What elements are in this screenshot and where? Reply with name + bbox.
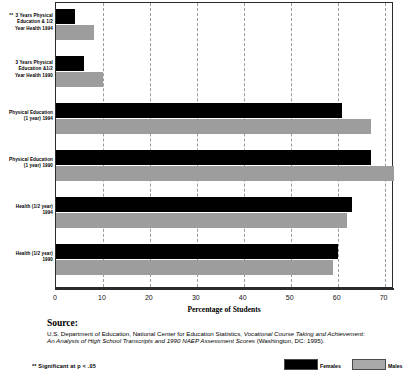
source-text: U.S. Department of Education, National C… [47,330,415,345]
legend-label-males: Males [388,363,402,369]
chart-legend: FemalesMales [284,359,419,373]
gridline-60 [338,3,339,287]
category-label-line: 1990 [0,257,53,264]
x-tick-40: 40 [231,294,255,301]
significance-marker-0: ** [9,13,14,18]
category-label-3: Physical Education(1 year) 1990 [0,157,53,170]
category-label-line: (1 year) 1990 [0,163,53,170]
bar-males-0 [56,25,94,40]
category-label-line: Year Health 1990 [0,73,53,80]
category-label-line: Education & 1/2 [0,19,53,26]
bar-females-0 [56,9,75,24]
legend-label-females: Females [320,363,341,369]
gridline-70 [385,3,386,287]
bar-females-2 [56,103,342,118]
bar-females-5 [56,244,338,259]
plot-area [55,2,393,288]
category-label-line: Year Health 1994 [0,26,53,33]
source-line1-italic: Vocational Course Taking and Achievement… [244,330,365,337]
category-label-line: Education &1/2 [0,66,53,73]
bar-males-2 [56,119,371,134]
legend-swatch-females [284,359,318,370]
bar-males-4 [56,213,347,228]
legend-swatch-males [352,359,386,370]
bar-females-3 [56,150,371,165]
category-label-line: Health (1/2 year) [0,251,53,258]
category-label-line: 3 Years Physical [0,60,53,67]
category-label-4: Health (1/2 year)1994 [0,204,53,217]
bar-females-4 [56,197,352,212]
category-label-line: Health (1/2 year) [0,204,53,211]
source-block: Source: U.S. Department of Education, Na… [47,318,415,345]
category-label-line: (1 year) 1994 [0,116,53,123]
x-tick-10: 10 [90,294,114,301]
plot-region: ** 3 Years PhysicalEducation & 1/2Year H… [0,0,419,292]
source-line2-plain: (Washington, DC: 1995). [257,337,325,344]
source-heading: Source: [47,318,415,329]
source-line2-italic: An Analysis of High School Transcripts a… [47,337,257,344]
x-axis-title: Percentage of Students [55,305,393,314]
significance-footnote: ** Significant at p < .05 [32,363,96,369]
x-tick-60: 60 [325,294,349,301]
category-label-5: Health (1/2 year)1990 [0,251,53,264]
source-line1-plain: U.S. Department of Education, National C… [47,330,244,337]
x-tick-30: 30 [184,294,208,301]
category-label-2: Physical Education(1 year) 1994 [0,110,53,123]
category-label-line: 1994 [0,210,53,217]
bar-males-1 [56,72,103,87]
x-tick-20: 20 [137,294,161,301]
category-label-line: Physical Education [0,110,53,117]
x-tick-70: 70 [372,294,396,301]
x-axis-line [55,288,394,290]
category-label-0: ** 3 Years PhysicalEducation & 1/2Year H… [0,13,53,33]
category-label-line: Physical Education [0,157,53,164]
bar-females-1 [56,56,84,71]
x-tick-50: 50 [278,294,302,301]
category-label-1: 3 Years PhysicalEducation &1/2Year Healt… [0,60,53,80]
bar-males-5 [56,260,333,275]
category-label-line: ** 3 Years Physical [0,13,53,20]
x-tick-0: 0 [43,294,67,301]
bar-males-3 [56,166,394,181]
chart-figure: ** 3 Years PhysicalEducation & 1/2Year H… [0,0,419,375]
